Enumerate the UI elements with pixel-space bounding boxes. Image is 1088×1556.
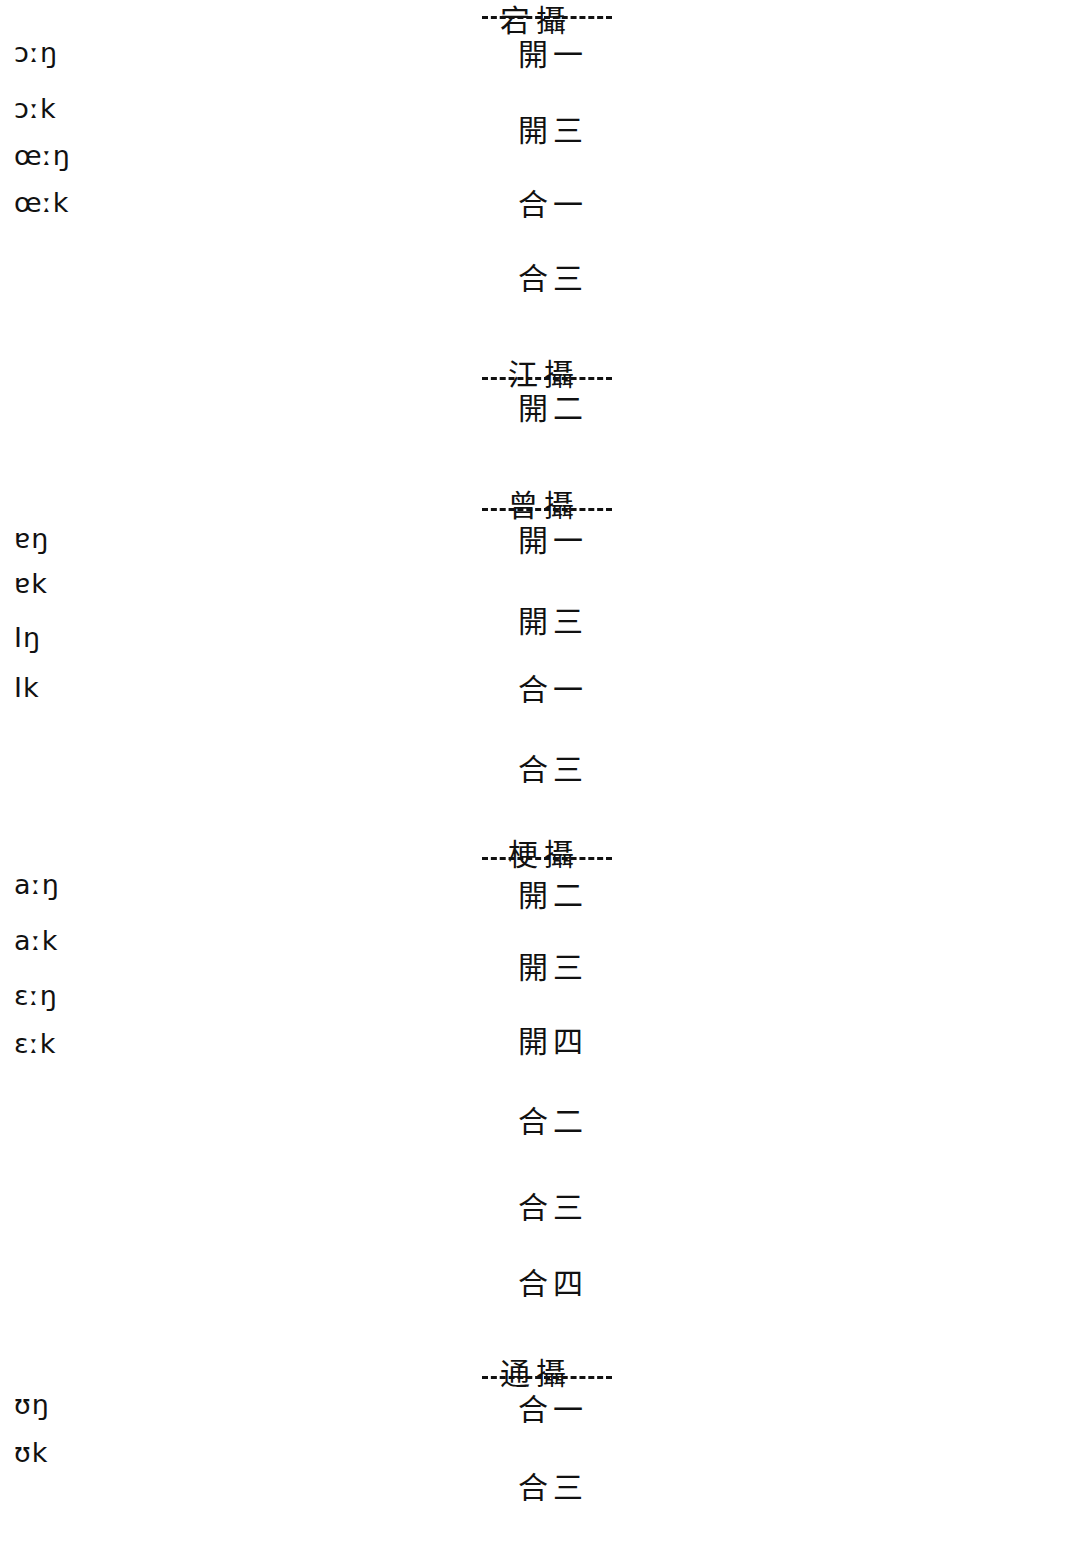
section-divider-geng (482, 857, 612, 860)
section-divider-jiang (482, 377, 612, 380)
rime-class-m15[interactable]: 合四 (518, 1269, 588, 1299)
left-rhyme-l5[interactable]: ɐŋ (14, 525, 49, 552)
rime-class-m6[interactable]: 開一 (518, 526, 588, 556)
left-rhyme-l1[interactable]: ɔːŋ (14, 39, 58, 66)
rime-class-m3[interactable]: 合一 (518, 190, 588, 220)
section-divider-tong (482, 1376, 612, 1379)
section-header-jiang: 江攝 (508, 350, 580, 394)
rime-class-m7[interactable]: 開三 (518, 607, 588, 637)
left-rhyme-l11[interactable]: ɛːŋ (14, 982, 58, 1009)
rime-class-m14[interactable]: 合三 (518, 1193, 588, 1223)
left-rhyme-l4[interactable]: œːk (14, 189, 69, 216)
left-rhyme-l6[interactable]: ɐk (14, 570, 48, 597)
left-rhyme-l9[interactable]: aːŋ (14, 871, 60, 898)
section-header-tong: 通攝 (500, 1349, 572, 1393)
rime-class-m9[interactable]: 合三 (518, 755, 588, 785)
section-header-geng: 梗攝 (508, 830, 580, 874)
left-rhyme-l3[interactable]: œːŋ (14, 142, 71, 169)
rime-class-m10[interactable]: 開二 (518, 881, 588, 911)
rime-class-m13[interactable]: 合二 (518, 1107, 588, 1137)
diagram-canvas: 宕攝江攝曾攝梗攝通攝 ɔːŋɔːkœːŋœːkɐŋɐkIŋIkaːŋaːkɛːŋ… (0, 0, 1088, 1556)
rime-class-m4[interactable]: 合三 (518, 264, 588, 294)
rime-class-m5[interactable]: 開二 (518, 394, 588, 424)
left-rhyme-l8[interactable]: Ik (14, 674, 40, 701)
rime-class-m2[interactable]: 開三 (518, 116, 588, 146)
rime-class-m17[interactable]: 合三 (518, 1473, 588, 1503)
section-header-zeng: 曾攝 (508, 481, 580, 525)
section-header-dang: 宕攝 (500, 0, 572, 40)
rime-class-m8[interactable]: 合一 (518, 675, 588, 705)
left-rhyme-l7[interactable]: Iŋ (14, 624, 41, 651)
rime-class-m11[interactable]: 開三 (518, 953, 588, 983)
left-rhyme-l2[interactable]: ɔːk (14, 95, 57, 122)
section-divider-zeng (482, 508, 612, 511)
left-rhyme-l10[interactable]: aːk (14, 927, 58, 954)
left-rhyme-l14[interactable]: ʊk (14, 1439, 48, 1466)
left-rhyme-l12[interactable]: ɛːk (14, 1030, 56, 1057)
left-rhyme-l13[interactable]: ʊŋ (14, 1391, 50, 1418)
section-divider-dang (482, 16, 612, 19)
rime-class-m12[interactable]: 開四 (518, 1027, 588, 1057)
rime-class-m16[interactable]: 合一 (518, 1395, 588, 1425)
rime-class-m1[interactable]: 開一 (518, 40, 588, 70)
